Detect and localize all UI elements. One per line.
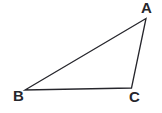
- vertex-label-c: C: [129, 89, 140, 104]
- triangle-diagram: A B C: [0, 0, 162, 113]
- triangle-shape: [25, 19, 146, 91]
- vertex-label-b: B: [13, 88, 24, 103]
- vertex-label-a: A: [141, 0, 152, 15]
